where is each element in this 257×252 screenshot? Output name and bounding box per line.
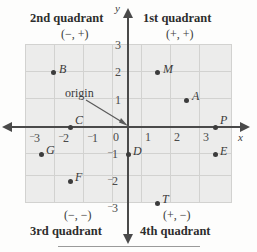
y-tick-neg3: –3 xyxy=(108,200,118,216)
point-label-E: E xyxy=(220,144,227,159)
origin-annotation-arrow-icon xyxy=(86,96,128,126)
quadrant-3-title: 3rd quadrant xyxy=(30,224,102,239)
quadrant-1-signs: (+, +) xyxy=(166,27,194,42)
point-label-G: G xyxy=(46,143,55,158)
y-axis-label: y xyxy=(115,2,120,14)
point-label-M: M xyxy=(163,62,173,77)
gridline-vertical xyxy=(83,44,84,203)
point-C xyxy=(68,125,73,130)
bottom-divider xyxy=(58,246,200,247)
x-axis-label: x xyxy=(238,131,243,143)
point-label-A: A xyxy=(192,89,199,104)
quadrant-3-signs: (−, −) xyxy=(64,208,92,223)
x-tick-neg3: –3 xyxy=(30,130,40,146)
point-label-D: D xyxy=(133,144,142,159)
point-label-P: P xyxy=(220,113,227,128)
gridline-vertical xyxy=(141,44,142,203)
coordinate-plane-figure: x y –3 –2 –1 0 1 2 3 3 2 1 –1 –2 –3 B M … xyxy=(0,0,257,252)
point-D xyxy=(126,152,131,157)
x-tick-neg2-value: 2 xyxy=(63,131,69,145)
point-label-T: T xyxy=(162,192,169,207)
x-tick-zero: 0 xyxy=(113,130,119,145)
x-tick-pos3: 3 xyxy=(203,130,209,145)
point-label-B: B xyxy=(59,62,66,77)
x-tick-pos2: 2 xyxy=(174,130,180,145)
quadrant-1-title: 1st quadrant xyxy=(143,11,211,26)
x-tick-neg3-value: 3 xyxy=(34,131,40,145)
y-tick-pos2: 2 xyxy=(115,65,121,80)
gridline-vertical xyxy=(54,44,55,203)
point-G xyxy=(39,152,44,157)
y-tick-neg1-value: 1 xyxy=(112,147,118,161)
point-E xyxy=(213,152,218,157)
y-axis-up-arrow-icon xyxy=(123,8,133,18)
gridline-vertical xyxy=(231,44,232,203)
point-label-C: C xyxy=(75,113,83,128)
x-tick-neg1: –1 xyxy=(88,130,98,146)
quadrant-4-signs: (+, −) xyxy=(163,208,191,223)
x-axis-left-arrow-icon xyxy=(2,122,12,132)
gridline-vertical xyxy=(25,44,26,203)
x-tick-neg1-value: 1 xyxy=(92,131,98,145)
point-label-F: F xyxy=(75,170,82,185)
y-tick-neg1: –1 xyxy=(108,146,118,162)
gridline-vertical xyxy=(199,44,200,203)
point-P xyxy=(213,125,218,130)
y-tick-neg2: –2 xyxy=(108,173,118,189)
x-tick-pos1: 1 xyxy=(145,130,151,145)
quadrant-4-title: 4th quadrant xyxy=(140,224,211,239)
point-A xyxy=(184,98,189,103)
y-tick-neg3-value: 3 xyxy=(112,201,118,215)
quadrant-2-title: 2nd quadrant xyxy=(30,11,103,26)
point-F xyxy=(68,179,73,184)
point-B xyxy=(51,70,56,75)
x-axis-line xyxy=(8,126,244,128)
x-tick-neg2: –2 xyxy=(59,130,69,146)
y-axis-down-arrow-icon xyxy=(123,234,133,244)
quadrant-2-signs: (−, +) xyxy=(61,27,89,42)
point-M xyxy=(155,70,160,75)
y-tick-neg2-value: 2 xyxy=(112,174,118,188)
point-T xyxy=(155,201,160,206)
y-tick-pos3: 3 xyxy=(115,38,121,53)
